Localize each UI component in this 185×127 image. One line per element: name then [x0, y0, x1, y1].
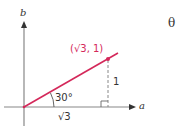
origin-dot: [23, 106, 26, 109]
theta-symbol: θ: [168, 17, 175, 29]
a-axis-label: a: [139, 101, 145, 111]
right-angle-marker: [101, 101, 108, 107]
adjacent-side-label: √3: [58, 112, 71, 122]
angle-label: 30°: [55, 93, 73, 103]
b-axis-arrowhead: [21, 21, 27, 28]
point-marker: [106, 57, 110, 61]
a-axis-arrowhead: [129, 104, 136, 110]
opposite-side-label: 1: [113, 77, 119, 87]
angle-arc: [51, 93, 55, 107]
diagram-canvas: [0, 0, 185, 127]
point-label: (√3, 1): [70, 44, 103, 54]
b-axis-label: b: [20, 8, 26, 18]
